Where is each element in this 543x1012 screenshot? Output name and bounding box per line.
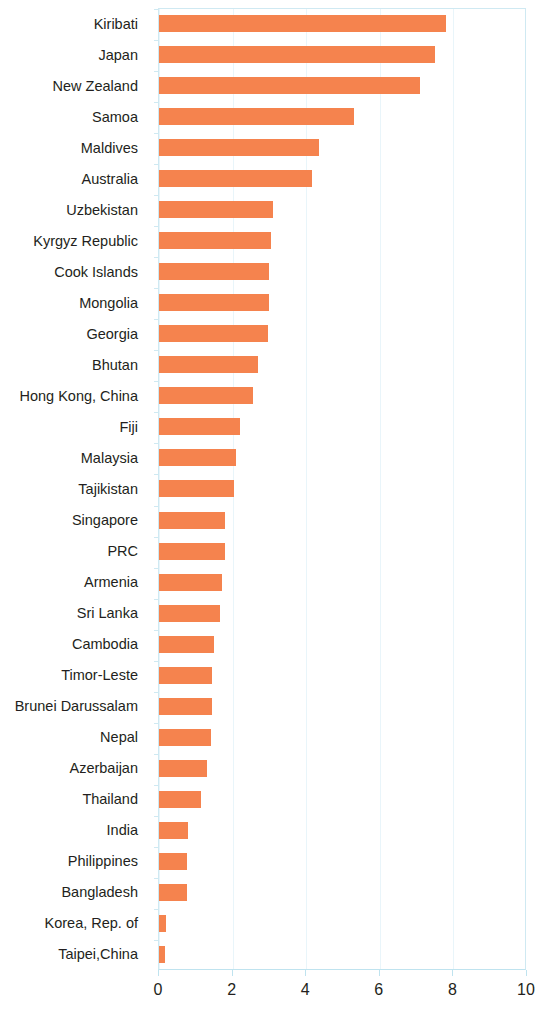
bar-row <box>159 133 525 164</box>
category-label: India <box>0 823 138 838</box>
category-label: Maldives <box>0 141 138 156</box>
category-label: Uzbekistan <box>0 203 138 218</box>
x-tick-mark <box>452 970 453 976</box>
category-tick-mark <box>154 288 159 289</box>
bar <box>159 387 253 404</box>
bar <box>159 729 211 746</box>
bar <box>159 46 435 63</box>
x-tick-label: 4 <box>301 982 310 998</box>
category-label: Kiribati <box>0 17 138 32</box>
bar-row <box>159 164 525 195</box>
category-label: Australia <box>0 172 138 187</box>
bar-row <box>159 443 525 474</box>
bar <box>159 667 212 684</box>
bar-row <box>159 9 525 40</box>
bar <box>159 449 236 466</box>
bar-row <box>159 195 525 226</box>
category-tick-mark <box>154 754 159 755</box>
category-tick-mark <box>154 226 159 227</box>
bar-row <box>159 878 525 909</box>
category-label: Tajikistan <box>0 482 138 497</box>
bar-row <box>159 661 525 692</box>
category-label: Bangladesh <box>0 885 138 900</box>
category-label: Japan <box>0 48 138 63</box>
bar-chart: KiribatiJapanNew ZealandSamoaMaldivesAus… <box>0 0 543 1012</box>
bar <box>159 356 258 373</box>
bar-row <box>159 537 525 568</box>
bar-row <box>159 785 525 816</box>
category-tick-mark <box>154 9 159 10</box>
bar <box>159 201 273 218</box>
bar <box>159 418 240 435</box>
bar-row <box>159 257 525 288</box>
bar <box>159 884 187 901</box>
bar-row <box>159 754 525 785</box>
category-label: Mongolia <box>0 296 138 311</box>
category-tick-mark <box>154 381 159 382</box>
bar-row <box>159 506 525 537</box>
category-label: Thailand <box>0 792 138 807</box>
category-tick-mark <box>154 474 159 475</box>
bar <box>159 822 188 839</box>
bar-row <box>159 940 525 971</box>
category-tick-mark <box>154 350 159 351</box>
category-label: Sri Lanka <box>0 606 138 621</box>
x-tick-label: 6 <box>374 982 383 998</box>
x-tick-mark <box>379 970 380 976</box>
category-label: Armenia <box>0 575 138 590</box>
category-tick-mark <box>154 319 159 320</box>
category-tick-mark <box>154 412 159 413</box>
x-tick-label: 0 <box>154 982 163 998</box>
bar-row <box>159 319 525 350</box>
category-tick-mark <box>154 692 159 693</box>
category-tick-mark <box>154 816 159 817</box>
x-tick-label: 8 <box>448 982 457 998</box>
bar <box>159 636 214 653</box>
x-tick-mark <box>305 970 306 976</box>
bar <box>159 760 207 777</box>
bar-row <box>159 381 525 412</box>
category-tick-mark <box>154 940 159 941</box>
bar-row <box>159 474 525 505</box>
bar-row <box>159 568 525 599</box>
category-tick-mark <box>154 630 159 631</box>
bar <box>159 574 222 591</box>
category-tick-mark <box>154 195 159 196</box>
bar-row <box>159 226 525 257</box>
category-label: Samoa <box>0 110 138 125</box>
bar <box>159 791 201 808</box>
category-tick-mark <box>154 568 159 569</box>
bar-row <box>159 599 525 630</box>
category-tick-mark <box>154 40 159 41</box>
category-label: PRC <box>0 544 138 559</box>
plot-area <box>158 8 526 970</box>
value-axis: 0246810 <box>0 970 543 1012</box>
x-tick-mark <box>526 970 527 976</box>
x-tick-label: 2 <box>227 982 236 998</box>
category-axis: KiribatiJapanNew ZealandSamoaMaldivesAus… <box>0 8 150 970</box>
category-label: Philippines <box>0 854 138 869</box>
category-tick-mark <box>154 133 159 134</box>
x-tick-mark <box>158 970 159 976</box>
bar-row <box>159 40 525 71</box>
bar <box>159 605 220 622</box>
bar <box>159 698 212 715</box>
bar <box>159 170 312 187</box>
category-tick-mark <box>154 102 159 103</box>
category-label: Georgia <box>0 327 138 342</box>
category-label: Kyrgyz Republic <box>0 234 138 249</box>
category-tick-mark <box>154 723 159 724</box>
category-tick-mark <box>154 257 159 258</box>
category-label: Hong Kong, China <box>0 389 138 404</box>
bar <box>159 543 225 560</box>
category-label: Cambodia <box>0 637 138 652</box>
bar-row <box>159 723 525 754</box>
category-tick-mark <box>154 506 159 507</box>
category-tick-mark <box>154 661 159 662</box>
bar-row <box>159 350 525 381</box>
category-label: Fiji <box>0 420 138 435</box>
bar-row <box>159 71 525 102</box>
bar <box>159 512 225 529</box>
x-tick-label: 10 <box>517 982 535 998</box>
category-label: Malaysia <box>0 451 138 466</box>
